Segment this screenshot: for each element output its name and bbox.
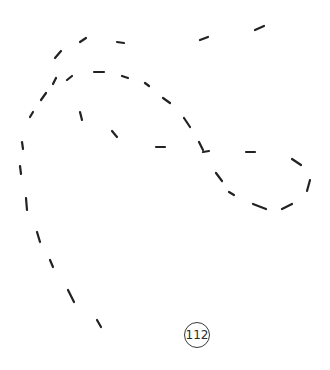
dash-segment — [112, 131, 117, 137]
dashed-tracing-drawing — [0, 0, 330, 370]
dash-segment — [41, 93, 46, 100]
dash-segment — [68, 290, 74, 302]
dash-segment — [216, 173, 222, 181]
dash-segment — [30, 112, 33, 117]
dash-segment — [145, 83, 149, 86]
page-number-badge: 112 — [184, 322, 210, 348]
dash-segment — [20, 166, 21, 174]
page-number-label: 112 — [186, 328, 209, 342]
dash-segment — [229, 192, 234, 195]
dash-segment — [22, 142, 23, 149]
dash-segment — [203, 151, 209, 152]
dash-segment — [26, 198, 27, 210]
dash-segment — [253, 204, 266, 209]
dash-segment — [292, 159, 301, 165]
dash-segment — [67, 76, 72, 80]
dash-segment — [255, 26, 264, 30]
dash-segment — [163, 98, 170, 103]
dash-segment — [55, 51, 61, 58]
dash-segment — [80, 38, 86, 42]
dash-segment — [37, 232, 40, 242]
dash-segment — [307, 180, 310, 191]
dash-segment — [200, 37, 208, 40]
dash-segment — [122, 76, 128, 78]
dash-segment — [282, 204, 292, 209]
dash-segment — [50, 260, 53, 267]
dash-segment — [199, 142, 203, 150]
dash-segment — [184, 118, 190, 127]
dash-segment — [117, 42, 124, 43]
dash-segment — [80, 112, 82, 120]
dash-segment — [97, 320, 101, 327]
dash-segment — [53, 78, 56, 84]
